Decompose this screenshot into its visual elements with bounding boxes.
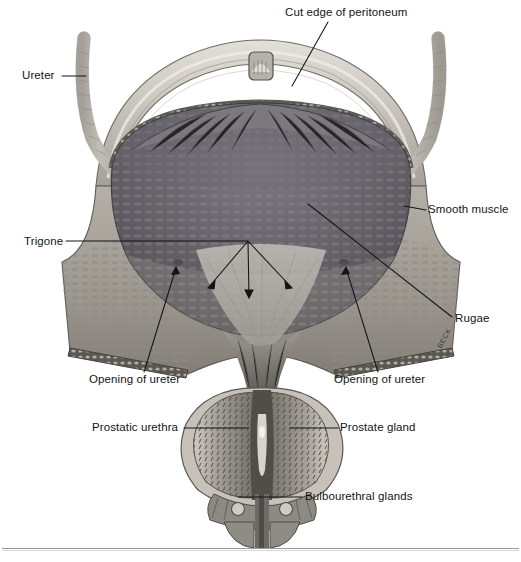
label-opening-of-ureter-left: Opening of ureter bbox=[89, 374, 180, 386]
bulbourethral-region bbox=[208, 494, 317, 548]
prostatic-urethra-lumen bbox=[250, 390, 274, 500]
ureteric-orifice-left bbox=[173, 259, 183, 265]
urachus-remnant bbox=[249, 52, 273, 80]
bulbourethral-gland-right bbox=[280, 503, 293, 516]
label-cut-edge-of-peritoneum: Cut edge of peritoneum bbox=[285, 7, 407, 19]
label-trigone: Trigone bbox=[24, 236, 63, 248]
ureteric-orifice-right bbox=[339, 259, 349, 265]
bulbourethral-gland-left bbox=[232, 503, 245, 516]
anatomical-figure: Cut edge of peritoneum Ureter Smooth mus… bbox=[0, 0, 521, 562]
label-prostatic-urethra: Prostatic urethra bbox=[92, 422, 178, 434]
label-rugae: Rugae bbox=[455, 313, 489, 325]
label-prostate-gland: Prostate gland bbox=[340, 422, 416, 434]
label-ureter: Ureter bbox=[22, 70, 55, 82]
label-opening-of-ureter-right: Opening of ureter bbox=[334, 374, 425, 386]
label-smooth-muscle: Smooth muscle bbox=[428, 204, 509, 216]
label-bulbourethral-glands: Bulbourethral glands bbox=[305, 491, 413, 503]
page-rule-shadow bbox=[2, 550, 519, 551]
anatomy-illustration bbox=[0, 0, 521, 562]
page-rule bbox=[2, 548, 519, 549]
